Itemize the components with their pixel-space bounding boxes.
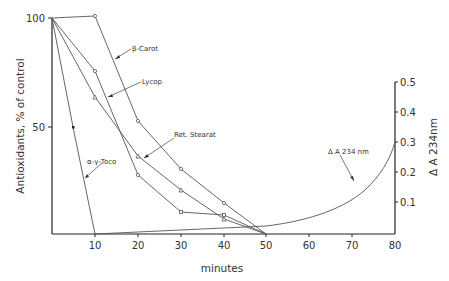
right-tick-01: 0.1	[400, 197, 416, 208]
y-tick-50: 50	[32, 122, 45, 133]
x-tick-40: 40	[218, 240, 231, 251]
x-tick-10: 10	[89, 240, 102, 251]
markers-beta-carot	[93, 14, 225, 204]
markers-lycop	[93, 69, 225, 216]
right-tick-02: 0.2	[400, 167, 416, 178]
series-ret-stearat	[52, 18, 266, 234]
label-delta-a234: Δ A 234 nm	[328, 148, 369, 156]
label-lycop: Lycop	[142, 78, 163, 86]
series-lycop	[52, 18, 266, 234]
right-axis-title: Δ A 234nm	[427, 118, 439, 176]
series-beta-carot	[52, 16, 266, 234]
y-tick-100: 100	[26, 13, 45, 24]
label-ret-stearat: Ret. Stearat	[174, 131, 216, 139]
x-axis-title: minutes	[201, 262, 244, 274]
left-axis-title: Antioxidants, % of control	[14, 58, 26, 193]
x-tick-70: 70	[346, 240, 359, 251]
x-tick-60: 60	[303, 240, 316, 251]
antioxidant-chart: 100 50 10 20 30 40 50 60 70 80 0.5 0.4 0…	[0, 0, 449, 281]
arrow-lycop	[108, 82, 141, 97]
x-tick-80: 80	[389, 240, 402, 251]
label-alpha-gamma-toco: α-γ-Toco	[87, 158, 116, 166]
x-tick-30: 30	[175, 240, 188, 251]
right-tick-04: 0.4	[400, 107, 416, 118]
x-tick-20: 20	[132, 240, 145, 251]
arrow-ret-stearat	[144, 138, 174, 158]
marker-alpha-gamma-toco	[72, 126, 75, 129]
right-tick-03: 0.3	[400, 137, 416, 148]
right-tick-05: 0.5	[400, 77, 416, 88]
label-beta-carot: β-Carot	[132, 45, 158, 53]
x-tick-50: 50	[260, 240, 273, 251]
